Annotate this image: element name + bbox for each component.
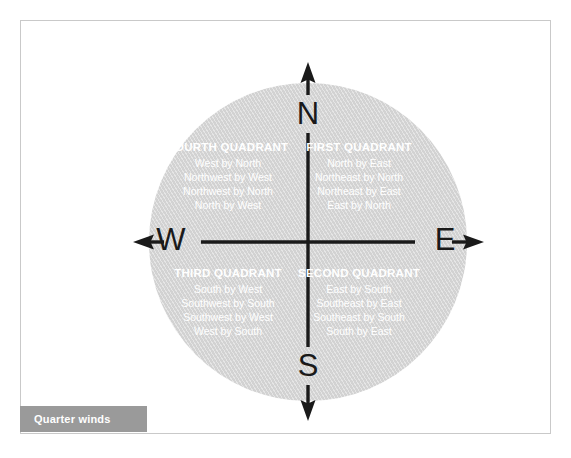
cardinal-label-west: W xyxy=(149,224,193,255)
cardinal-label-south: S xyxy=(278,350,338,381)
wind-name: South by East xyxy=(275,325,443,339)
cardinal-label-north: N xyxy=(278,98,338,129)
wind-name: Northeast by East xyxy=(275,185,443,199)
figure-root: N S W E FOURTH QUADRANT West by North No… xyxy=(0,0,571,458)
wind-name: Southeast by East xyxy=(275,297,443,311)
wind-name: East by South xyxy=(275,283,443,297)
quadrant-second: SECOND QUADRANT East by South Southeast … xyxy=(275,266,443,339)
cardinal-label-east: E xyxy=(423,224,467,255)
caption-label: Quarter winds xyxy=(20,413,111,425)
quadrant-first: FIRST QUADRANT North by East Northeast b… xyxy=(275,140,443,213)
caption-bar: Quarter winds xyxy=(20,406,147,432)
quadrant-second-title: SECOND QUADRANT xyxy=(275,266,443,280)
quadrant-second-wind-list: East by South Southeast by East Southeas… xyxy=(275,283,443,338)
wind-name: East by North xyxy=(275,199,443,213)
wind-name: North by East xyxy=(275,157,443,171)
wind-name: Northeast by North xyxy=(275,171,443,185)
figure-frame: N S W E FOURTH QUADRANT West by North No… xyxy=(20,20,551,434)
quadrant-first-title: FIRST QUADRANT xyxy=(275,140,443,154)
quadrant-first-wind-list: North by East Northeast by North Northea… xyxy=(275,157,443,212)
wind-name: Southeast by South xyxy=(275,311,443,325)
